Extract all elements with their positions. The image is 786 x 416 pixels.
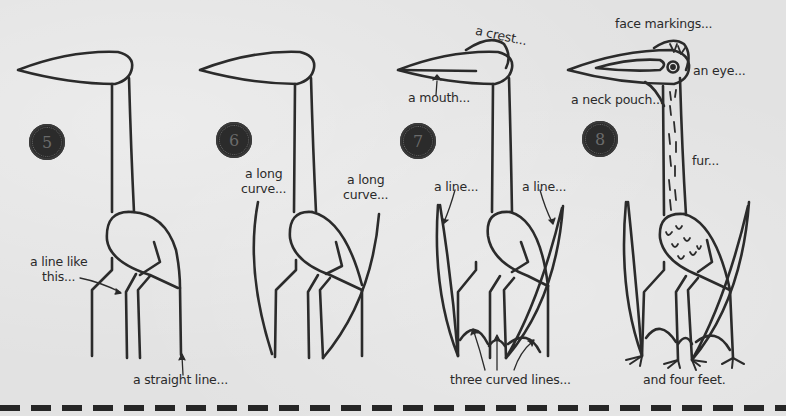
step-badge-5: 5 — [29, 124, 65, 160]
step-7-figure — [398, 40, 563, 358]
step-badge-6: 6 — [216, 122, 252, 158]
drawing-tutorial-page: 5 6 7 8 a line like this... a straight l… — [0, 0, 786, 416]
label-fur: fur... — [692, 153, 719, 168]
step-badge-8: 8 — [582, 121, 618, 157]
step-number: 8 — [595, 130, 605, 149]
step-5-figure — [18, 52, 181, 358]
step-number: 6 — [229, 131, 239, 150]
label-line-right: a line... — [522, 179, 566, 194]
step-number: 7 — [413, 132, 423, 151]
label-line-left: a line... — [434, 179, 478, 194]
dashed-cut-line — [0, 405, 786, 411]
label-face-markings: face markings... — [615, 16, 712, 31]
step-5-arrows — [80, 278, 185, 375]
step-6-figure — [200, 52, 379, 358]
step-number: 5 — [42, 133, 52, 152]
pterosaur-drawings — [0, 0, 786, 416]
label-neck-pouch: a neck pouch... — [571, 92, 664, 107]
step-badge-7: 7 — [400, 123, 436, 159]
label-long-curve-right: a long curve... — [343, 172, 388, 202]
label-three-curved-lines: three curved lines... — [450, 372, 571, 387]
label-line-like-this: a line like this... — [30, 254, 87, 284]
label-straight-line: a straight line... — [133, 372, 228, 387]
step-8-figure — [568, 41, 749, 370]
label-four-feet: and four feet. — [643, 372, 725, 387]
label-eye: an eye... — [693, 63, 745, 78]
label-mouth: a mouth... — [408, 90, 470, 105]
label-long-curve-left: a long curve... — [241, 166, 286, 196]
